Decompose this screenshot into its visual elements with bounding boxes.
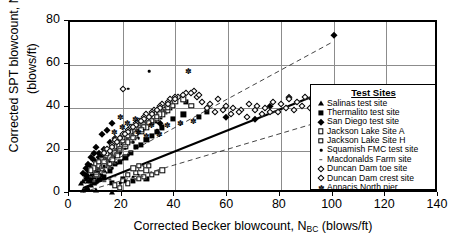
x-tick-label: 140 <box>417 197 452 211</box>
x-tick-label: 60 <box>206 197 246 211</box>
x-tick-label: 100 <box>312 197 352 211</box>
marker-open-square <box>318 138 323 143</box>
x-tick-mark <box>384 192 385 196</box>
legend-marker-swatch: ✽ <box>315 183 327 192</box>
x-axis-subscript: BC <box>307 224 319 234</box>
x-tick-label: 0 <box>48 197 88 211</box>
trend-line-upper-bound <box>83 43 331 177</box>
x-tick-label: 40 <box>153 197 193 211</box>
x-tick-mark <box>173 192 174 196</box>
legend-marker-swatch <box>315 127 327 136</box>
marker-filled-square <box>318 110 323 115</box>
y-tick-label: 20 <box>26 141 60 155</box>
x-tick-mark <box>226 192 227 196</box>
trend-line-best-fit <box>83 89 331 188</box>
marker-open-diamond <box>317 165 324 172</box>
x-tick-label: 80 <box>259 197 299 211</box>
marker-open-square <box>318 129 323 134</box>
legend-marker-swatch <box>315 136 327 145</box>
x-tick-label: 120 <box>364 197 404 211</box>
scatter-chart-figure: Corrected SPT blowcount, N60 (blows/ft) … <box>0 0 452 252</box>
marker-dash <box>319 159 322 161</box>
legend-item: ✽Annacis North pier <box>315 183 432 192</box>
marker-open-diamond <box>317 175 324 182</box>
x-tick-mark <box>68 192 69 196</box>
y-tick-label: 80 <box>26 12 60 26</box>
y-tick-label: 40 <box>26 98 60 112</box>
data-point <box>109 189 115 194</box>
legend-marker-swatch <box>315 99 327 108</box>
x-tick-label: 20 <box>101 197 141 211</box>
trend-line-lower-bound <box>83 119 331 192</box>
x-axis-title: Corrected Becker blowcount, NBC (blows/f… <box>68 219 438 234</box>
y-axis-title-line1: Corrected SPT blowcount, N60 <box>7 0 21 152</box>
x-tick-mark <box>332 192 333 196</box>
legend-marker-swatch <box>315 145 327 154</box>
legend-box: Test Sites Salinas test siteThermalito t… <box>310 84 436 190</box>
legend-title: Test Sites <box>315 87 432 98</box>
legend-marker-swatch <box>315 108 327 117</box>
marker-filled-dot <box>320 149 323 152</box>
legend-marker-swatch <box>315 117 327 126</box>
legend-items: Salinas test siteThermalito test siteSan… <box>315 99 432 193</box>
legend-marker-swatch <box>315 174 327 183</box>
marker-open-star: ✽ <box>318 184 325 191</box>
legend-item-label: Annacis North pier <box>327 183 398 192</box>
legend-marker-swatch <box>315 155 327 164</box>
legend-marker-swatch <box>315 164 327 173</box>
y-tick-label: 60 <box>26 55 60 69</box>
x-tick-mark <box>279 192 280 196</box>
x-tick-mark <box>437 192 438 196</box>
marker-filled-diamond <box>318 119 324 125</box>
marker-filled-triangle <box>318 101 324 106</box>
y-tick-label: 0 <box>26 184 60 198</box>
x-tick-mark <box>121 192 122 196</box>
